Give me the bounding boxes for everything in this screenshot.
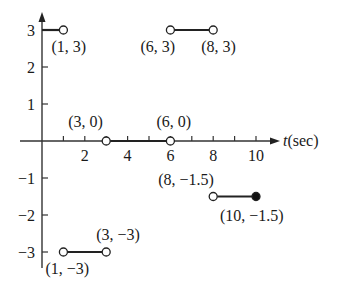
y-tick-label: 2 [27, 59, 35, 76]
y-axis-arrow-icon [39, 12, 46, 22]
y-tick-label: 1 [27, 96, 35, 113]
y-tick-label: −1 [18, 170, 35, 187]
open-endpoint-icon [102, 137, 110, 145]
point-annotation: (3, 0) [68, 113, 103, 131]
closed-endpoint-icon [252, 193, 260, 201]
x-tick-label: 8 [209, 147, 217, 164]
point-annotation: (10, −1.5) [220, 207, 284, 225]
y-tick-label: −2 [18, 207, 35, 224]
y-tick-label: −3 [18, 244, 35, 261]
open-endpoint-icon [166, 137, 174, 145]
x-tick-label: 2 [81, 147, 89, 164]
point-annotation: (1, −3) [45, 260, 89, 278]
point-annotation: (6, 0) [156, 113, 191, 131]
open-endpoint-icon [102, 248, 110, 256]
point-annotation: (6, 3) [140, 38, 175, 56]
x-tick-label: 10 [248, 147, 264, 164]
open-endpoint-icon [59, 26, 67, 34]
x-axis-label: t(sec) [283, 132, 319, 150]
open-endpoint-icon [166, 26, 174, 34]
x-axis-arrow-icon [270, 138, 280, 145]
y-tick-label: 3 [27, 22, 35, 39]
x-tick-label: 4 [124, 147, 132, 164]
point-annotation: (3, −3) [96, 226, 140, 244]
piecewise-chart: t(sec) 246810321−1−2−3 (1, 3)(6, 3)(8, 3… [0, 0, 339, 284]
x-tick-label: 6 [166, 147, 174, 164]
open-endpoint-icon [59, 248, 67, 256]
point-annotation: (8, −1.5) [158, 171, 214, 189]
open-endpoint-icon [209, 26, 217, 34]
point-annotation: (1, 3) [51, 38, 86, 56]
open-endpoint-icon [209, 193, 217, 201]
point-annotation: (8, 3) [201, 38, 236, 56]
